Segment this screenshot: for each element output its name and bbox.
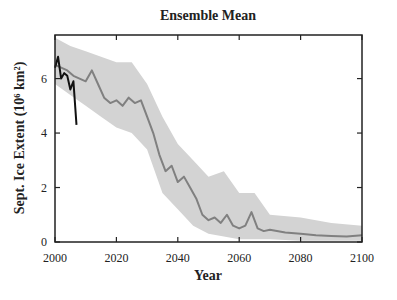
spread-band bbox=[55, 38, 362, 241]
x-tick-label: 2020 bbox=[104, 251, 128, 265]
y-tick-label: 0 bbox=[41, 235, 47, 249]
chart-title: Ensemble Mean bbox=[160, 8, 256, 23]
chart: Ensemble Mean 200020202040206020802100 0… bbox=[0, 0, 397, 300]
x-tick-label: 2000 bbox=[43, 251, 67, 265]
x-axis-label: Year bbox=[194, 268, 222, 283]
x-tick-label: 2100 bbox=[350, 251, 374, 265]
spread-band-area bbox=[55, 38, 362, 241]
y-tick-label: 6 bbox=[41, 72, 47, 86]
x-tick-label: 2060 bbox=[227, 251, 251, 265]
y-tick-label: 2 bbox=[41, 181, 47, 195]
y-axis-label: Sept. Ice Extent (10⁶ km²) bbox=[12, 61, 28, 214]
x-tick-label: 2080 bbox=[289, 251, 313, 265]
y-tick-label: 4 bbox=[41, 126, 47, 140]
x-tick-label: 2040 bbox=[166, 251, 190, 265]
